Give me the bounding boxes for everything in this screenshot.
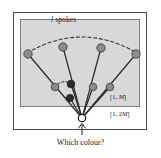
spokes-label: l spokes <box>51 16 76 24</box>
inner-node-light <box>51 83 59 91</box>
m-symbol-inner: M <box>119 93 124 100</box>
range-inner-label: [1, M] <box>110 94 126 101</box>
figure-caption: Which colour? <box>0 138 161 147</box>
inner-node-light <box>106 83 114 91</box>
inner-node-dark <box>67 80 75 88</box>
outer-node <box>97 44 105 52</box>
spokes-word: spokes <box>53 15 76 24</box>
range-outer-label: [1, 2M] <box>110 111 130 118</box>
outer-node <box>59 43 67 51</box>
root-node <box>78 114 85 121</box>
inner-node-dark <box>66 94 73 101</box>
inner-node-light <box>89 83 97 91</box>
outer-node <box>24 50 32 58</box>
m-symbol-outer: M <box>122 110 127 117</box>
diagram-canvas <box>0 0 161 158</box>
outer-node <box>132 50 140 58</box>
spoke-diagram-figure: l spokes [1, M] [1, 2M] Which colour? <box>0 0 161 158</box>
